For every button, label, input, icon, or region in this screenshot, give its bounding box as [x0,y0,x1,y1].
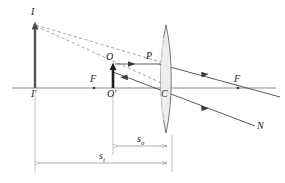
arrowhead-parallel-ray [128,61,136,66]
label-ray-end-n: N [257,121,264,131]
focal-point-left-dot [93,87,96,90]
image-distance-subscript: i [103,156,105,163]
label-lens-center-c: C [161,89,168,99]
focal-point-right-dot [237,87,240,90]
label-focal-left: F [90,74,96,84]
refracted-ray-through-focal [159,64,280,97]
virtual-ray-I-to-P [36,25,164,63]
biconvex-lens [161,25,172,133]
label-focal-right: F [234,74,240,84]
label-object-base: O' [107,89,116,99]
label-point-p: P [146,51,152,61]
optics-ray-diagram: I I' F O O' P C F N so si [0,0,285,183]
arrowhead-chief-ray-right [201,106,209,112]
label-image-tip: I [31,7,34,17]
label-object-tip: O [106,52,113,62]
label-object-distance: so [137,134,144,147]
label-image-base: I' [31,89,36,99]
label-image-distance: si [99,151,105,164]
object-distance-subscript: o [141,139,144,146]
diagram-canvas [0,0,285,183]
